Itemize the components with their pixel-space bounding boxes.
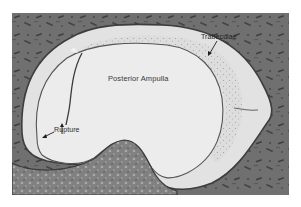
label-trabeculae: Trabeculae (201, 33, 237, 40)
label-posterior-ampulla: Posterior Ampulla (108, 74, 168, 83)
micrograph-image (12, 13, 289, 195)
label-rupture: Rupture (54, 126, 80, 133)
micrograph-figure: Trabeculae Posterior Ampulla Rupture (12, 13, 289, 195)
